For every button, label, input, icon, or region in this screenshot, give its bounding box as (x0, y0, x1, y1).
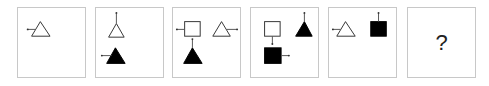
sequence-panel-4 (250, 7, 319, 78)
question-mark: ? (408, 8, 475, 77)
black-triangle-tail-left-icon (101, 48, 125, 64)
outline-square-tail-left-icon (176, 22, 200, 37)
sequence-panel-answer: ? (407, 7, 476, 78)
panel-4-figure (251, 8, 318, 77)
panel-1-figure (18, 8, 85, 77)
sequence-panel-3 (172, 7, 241, 78)
panel-5-figure (329, 8, 396, 77)
sequence-panel-1 (17, 7, 86, 78)
black-triangle-tail-up-icon (184, 38, 202, 63)
sequence-panel-5 (328, 7, 397, 78)
black-square-tail-right-icon (265, 48, 290, 64)
outline-triangle-tail-left-icon (332, 22, 355, 37)
outline-triangle-tail-left-icon (27, 22, 50, 37)
sequence-panel-2 (95, 7, 164, 78)
panel-2-figure (96, 8, 163, 77)
outline-triangle-tail-up-icon (109, 12, 125, 37)
panel-3-figure (173, 8, 240, 77)
black-triangle-tail-up-icon (296, 12, 313, 36)
black-square-tail-up-icon (371, 12, 387, 36)
outline-triangle-tail-right-icon (213, 22, 238, 37)
outline-square-tail-down-icon (265, 22, 281, 45)
